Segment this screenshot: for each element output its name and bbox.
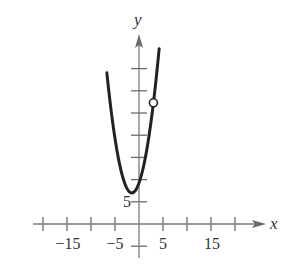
x-tick-label-neg15: −15 xyxy=(55,235,80,252)
x-tick-label-5: 5 xyxy=(159,235,167,252)
function-graph: x y −15 −5 5 15 5 xyxy=(0,0,296,270)
x-axis-label: x xyxy=(269,214,278,233)
open-circle-hole xyxy=(149,99,157,107)
parabola-curve xyxy=(107,49,159,193)
y-tick-label-5: 5 xyxy=(123,193,131,210)
y-axis-label: y xyxy=(132,10,142,29)
x-tick-label-15: 15 xyxy=(204,235,220,252)
x-tick-label-neg5: −5 xyxy=(106,235,123,252)
